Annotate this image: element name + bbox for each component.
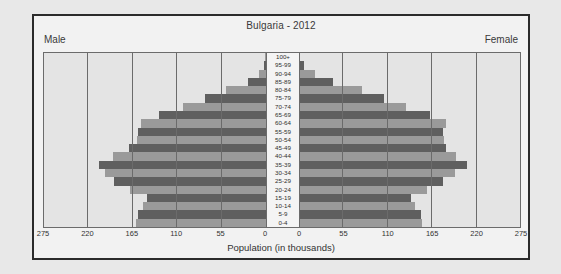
bar-female-90-94 (298, 70, 315, 78)
age-group-label-75-79: 75-79 (267, 94, 299, 102)
table-row (298, 219, 520, 227)
age-group-label-95-99: 95-99 (267, 61, 299, 69)
table-row (298, 136, 520, 144)
table-row (298, 186, 520, 194)
x-axis-label: Population (in thousands) (34, 242, 528, 253)
bar-female-25-29 (298, 177, 443, 185)
bar-male-20-24 (130, 186, 266, 194)
table-row (298, 103, 520, 111)
table-row (298, 53, 520, 61)
x-tick-female-110: 110 (382, 229, 394, 238)
x-tick-male-220: 220 (81, 229, 94, 238)
table-row (44, 219, 266, 227)
table-row (298, 61, 520, 69)
bar-male-5-9 (138, 210, 266, 218)
bar-male-10-14 (143, 202, 266, 210)
x-tick-male-110: 110 (170, 229, 182, 238)
female-series-label: Female (485, 34, 518, 45)
male-series-label: Male (44, 34, 66, 45)
gridline-male-55 (221, 53, 222, 227)
table-row (44, 194, 266, 202)
table-row (298, 210, 520, 218)
table-row (44, 103, 266, 111)
bar-male-85-89 (248, 78, 266, 86)
age-group-label-45-49: 45-49 (267, 144, 299, 152)
plot-area: 100+95-9990-9485-8980-8475-7970-7465-696… (43, 52, 521, 228)
bar-female-5-9 (298, 210, 421, 218)
age-group-label-35-39: 35-39 (267, 161, 299, 169)
age-group-label-80-84: 80-84 (267, 86, 299, 94)
table-row (44, 70, 266, 78)
table-row (44, 186, 266, 194)
age-group-label-55-59: 55-59 (267, 128, 299, 136)
x-tick-male-55: 55 (216, 229, 224, 238)
gridline-male-220 (87, 53, 88, 227)
bar-male-30-34 (105, 169, 266, 177)
bar-female-40-44 (298, 152, 456, 160)
bar-male-70-74 (183, 103, 266, 111)
table-row (298, 78, 520, 86)
x-tick-male-165: 165 (126, 229, 139, 238)
bar-female-50-54 (298, 136, 444, 144)
age-group-label-20-24: 20-24 (267, 186, 299, 194)
age-group-axis: 100+95-9990-9485-8980-8475-7970-7465-696… (266, 53, 300, 227)
bar-female-75-79 (298, 94, 384, 102)
bar-female-45-49 (298, 144, 446, 152)
age-group-label-25-29: 25-29 (267, 177, 299, 185)
bar-female-10-14 (298, 202, 415, 210)
bar-male-40-44 (113, 152, 266, 160)
chart-frame: Bulgaria - 2012 Male Female 100+95-9990-… (32, 14, 530, 260)
age-group-label-10-14: 10-14 (267, 202, 299, 210)
bar-female-0-4 (298, 219, 422, 227)
bar-female-70-74 (298, 103, 406, 111)
x-tick-female-275: 275 (515, 229, 528, 238)
table-row (298, 128, 520, 136)
table-row (44, 86, 266, 94)
table-row (44, 161, 266, 169)
table-row (298, 177, 520, 185)
gridline-male-165 (132, 53, 133, 227)
bar-male-45-49 (129, 144, 266, 152)
table-row (298, 119, 520, 127)
table-row (298, 152, 520, 160)
table-row (298, 202, 520, 210)
x-tick-male-275: 275 (37, 229, 50, 238)
gridline-female-220 (476, 53, 477, 227)
table-row (44, 177, 266, 185)
age-group-label-5-9: 5-9 (267, 210, 299, 218)
bar-female-60-64 (298, 119, 446, 127)
gridline-male-110 (176, 53, 177, 227)
table-row (44, 136, 266, 144)
bar-male-80-84 (226, 86, 266, 94)
age-group-label-100+: 100+ (267, 53, 299, 61)
table-row (44, 78, 266, 86)
bar-male-65-69 (159, 111, 266, 119)
bar-male-50-54 (137, 136, 266, 144)
age-group-label-90-94: 90-94 (267, 70, 299, 78)
table-row (298, 111, 520, 119)
age-group-label-30-34: 30-34 (267, 169, 299, 177)
table-row (44, 202, 266, 210)
bar-female-85-89 (298, 78, 333, 86)
female-bars-panel (298, 53, 520, 227)
age-group-label-50-54: 50-54 (267, 136, 299, 144)
table-row (44, 128, 266, 136)
bar-female-35-39 (298, 161, 467, 169)
table-row (298, 194, 520, 202)
table-row (44, 53, 266, 61)
age-group-label-60-64: 60-64 (267, 119, 299, 127)
age-group-label-15-19: 15-19 (267, 194, 299, 202)
table-row (44, 94, 266, 102)
bar-male-90-94 (259, 70, 266, 78)
gridline-female-165 (431, 53, 432, 227)
table-row (44, 144, 266, 152)
age-group-label-40-44: 40-44 (267, 152, 299, 160)
age-group-label-85-89: 85-89 (267, 78, 299, 86)
bar-female-80-84 (298, 86, 362, 94)
bar-male-15-19 (147, 194, 266, 202)
x-axis-ticks: 275220165110550055110165220275 (43, 229, 521, 243)
bar-female-55-59 (298, 128, 443, 136)
table-row (44, 152, 266, 160)
table-row (298, 169, 520, 177)
table-row (298, 161, 520, 169)
